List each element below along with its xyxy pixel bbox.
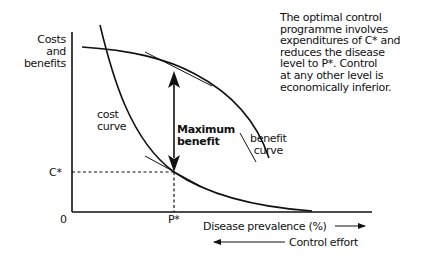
p-star-label: P* (168, 214, 180, 226)
maximum-benefit-arrow (168, 71, 180, 172)
x-axis-title: Disease prevalence (%) (203, 221, 327, 233)
cost-curve-label: cost curve (97, 109, 126, 133)
benefit-curve-label: benefit curve (250, 133, 287, 157)
c-star-label: C* (49, 167, 62, 179)
y-axis-title: Costs and benefits (24, 34, 66, 70)
maximum-benefit-label: Maximum benefit (177, 124, 235, 148)
benefit-tangent-line (145, 52, 212, 86)
control-effort-label: Control effort (289, 237, 358, 249)
caption-text: The optimal control programme involves e… (280, 12, 400, 93)
origin-label: 0 (60, 214, 67, 226)
cost-benefit-diagram: Costs and benefits The optimal control p… (0, 0, 422, 265)
